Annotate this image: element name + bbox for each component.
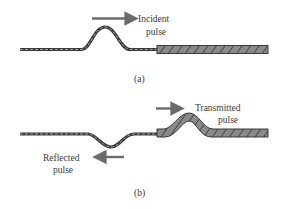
caption-a: (a) bbox=[134, 74, 145, 85]
pulse-reflection-diagram: Incident pulse (a) Transmitted pulse Ref… bbox=[0, 0, 281, 209]
incident-label-line1: Incident bbox=[138, 14, 169, 24]
light-string-a bbox=[20, 27, 157, 50]
light-string-b bbox=[20, 134, 157, 147]
caption-b: (b) bbox=[134, 188, 145, 199]
transmitted-label-line2: pulse bbox=[218, 115, 238, 125]
reflected-label-line1: Reflected bbox=[43, 153, 80, 163]
light-string-b-dashes bbox=[20, 134, 157, 147]
heavy-string-b bbox=[157, 113, 268, 137]
incident-label-line2: pulse bbox=[146, 27, 166, 37]
transmitted-label-line1: Transmitted bbox=[195, 103, 241, 113]
panel-a: Incident pulse (a) bbox=[20, 14, 268, 85]
panel-b: Transmitted pulse Reflected pulse (b) bbox=[20, 103, 268, 199]
heavy-string-a bbox=[157, 46, 268, 54]
reflected-label-line2: pulse bbox=[53, 165, 73, 175]
